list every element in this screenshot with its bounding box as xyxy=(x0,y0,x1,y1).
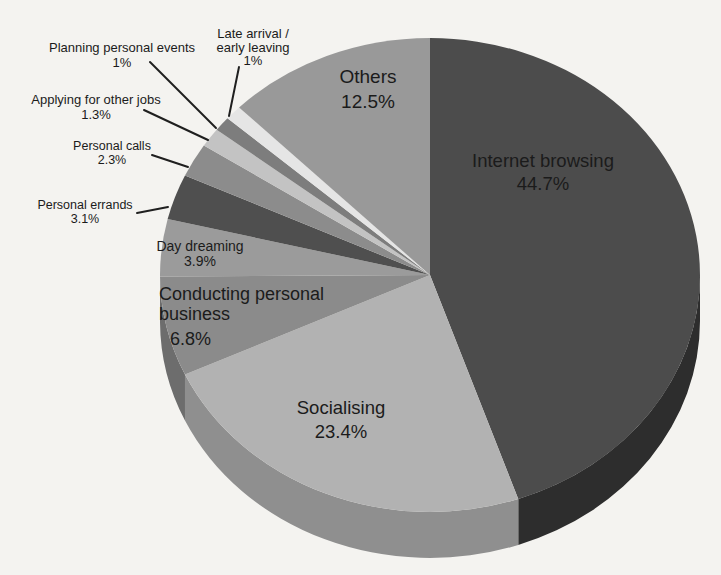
pie-chart-svg xyxy=(0,0,721,575)
leader-personal-errands xyxy=(137,207,168,213)
chart-page: Planning personal events1%Late arrival /… xyxy=(0,0,721,575)
leader-applying-for-other-jobs xyxy=(144,110,208,140)
leader-personal-calls xyxy=(152,155,188,167)
leader-late-arrival-early-leaving xyxy=(229,67,239,116)
